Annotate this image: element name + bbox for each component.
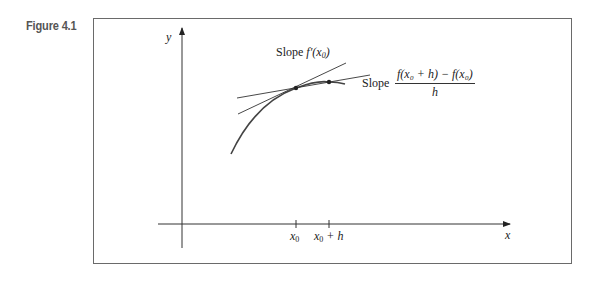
tangent-slope-label: Slope f′(x0) (276, 45, 330, 60)
y-axis-label: y (166, 30, 171, 45)
function-curve (231, 82, 345, 154)
secant-line (237, 75, 370, 98)
secant-slope-fraction: f(x₀ + h) − f(x₀) h (395, 67, 475, 100)
point-x0-plus-h (327, 80, 331, 84)
fraction-numerator: f(x₀ + h) − f(x₀) (395, 67, 475, 84)
fraction-denominator: h (395, 84, 475, 100)
x-axis-label: x (505, 228, 510, 243)
tick-label-x0-plus-h: x0 + h (314, 229, 343, 244)
secant-slope-prefix: Slope (362, 76, 389, 91)
point-x0 (294, 86, 298, 90)
tick-label-x0: x0 (290, 229, 299, 244)
